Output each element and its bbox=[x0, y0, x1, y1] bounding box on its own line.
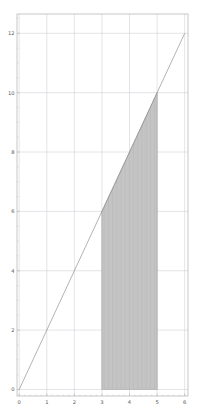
x-tick-label: 3 bbox=[100, 399, 103, 405]
y-tick-label: 10 bbox=[8, 90, 15, 96]
x-tick-label: 5 bbox=[155, 399, 158, 405]
y-axis-tick-labels: 024681012 bbox=[8, 30, 15, 392]
y-tick-label: 0 bbox=[11, 386, 14, 392]
y-tick-label: 4 bbox=[11, 268, 15, 274]
x-axis-tick-labels: 0123456 bbox=[18, 399, 187, 405]
line-chart-with-shaded-area: 0123456 024681012 bbox=[0, 0, 199, 419]
x-tick-label: 4 bbox=[128, 399, 132, 405]
x-tick-label: 2 bbox=[73, 399, 76, 405]
x-tick-label: 0 bbox=[18, 399, 21, 405]
x-tick-label: 6 bbox=[183, 399, 186, 405]
y-tick-label: 12 bbox=[8, 30, 15, 36]
chart-figure: 0123456 024681012 bbox=[0, 0, 199, 419]
y-tick-label: 8 bbox=[11, 149, 14, 155]
y-tick-label: 6 bbox=[11, 208, 14, 214]
y-tick-label: 2 bbox=[11, 327, 14, 333]
x-tick-label: 1 bbox=[45, 399, 48, 405]
